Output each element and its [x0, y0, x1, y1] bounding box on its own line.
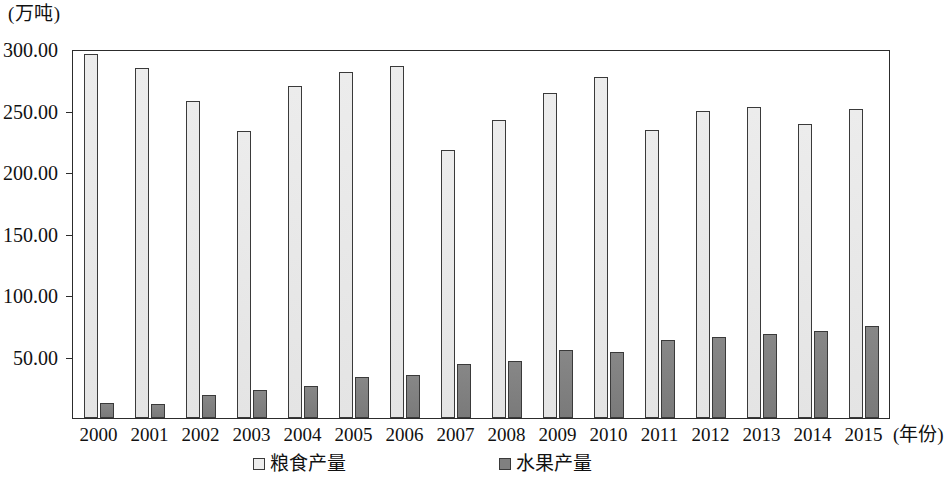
bar-group — [736, 51, 787, 418]
x-axis-tick-label: 2004 — [284, 422, 322, 448]
chart-root: (万吨) 50.00100.00150.00200.00250.00300.00… — [0, 0, 951, 479]
bar-group — [583, 51, 634, 418]
bar-group — [175, 51, 226, 418]
bar-grain — [84, 54, 98, 418]
bar-grain — [390, 66, 404, 418]
x-axis-tick-label: 2014 — [794, 422, 832, 448]
x-axis-tick-label: 2008 — [488, 422, 526, 448]
bar-grain — [543, 93, 557, 418]
x-axis-tick-label: 2000 — [80, 422, 118, 448]
bar-grain — [747, 107, 761, 418]
y-axis-tick-label: 50.00 — [13, 348, 58, 368]
bar-fruit — [457, 364, 471, 418]
bar-fruit — [100, 403, 114, 418]
bar-fruit — [304, 386, 318, 418]
y-axis-unit-caption: (万吨) — [8, 2, 61, 26]
y-axis-tick-mark — [66, 358, 73, 359]
bar-grain — [492, 120, 506, 418]
y-axis-tick-mark — [66, 296, 73, 297]
bar-fruit — [661, 340, 675, 418]
bar-fruit — [253, 390, 267, 418]
x-axis-tick-label: 2001 — [131, 422, 169, 448]
bar-grain — [135, 68, 149, 418]
y-axis-tick-label: 150.00 — [3, 225, 58, 245]
x-axis-tick-label: 2002 — [182, 422, 220, 448]
bar-grain — [594, 77, 608, 418]
bar-grain — [798, 124, 812, 418]
x-axis-tick-label: 2005 — [335, 422, 373, 448]
y-axis-tick-label: 300.00 — [3, 40, 58, 60]
bar-group — [430, 51, 481, 418]
bar-group — [379, 51, 430, 418]
bar-group — [73, 51, 124, 418]
bar-fruit — [406, 375, 420, 418]
legend-swatch-fruit-icon — [499, 458, 511, 470]
bar-fruit — [763, 334, 777, 418]
bar-fruit — [508, 361, 522, 418]
bar-group — [787, 51, 838, 418]
bar-grain — [645, 130, 659, 418]
legend-swatch-grain-icon — [253, 458, 265, 470]
bar-grain — [186, 101, 200, 418]
bar-group — [124, 51, 175, 418]
x-axis-tick-label: 2009 — [539, 422, 577, 448]
bar-grain — [339, 72, 353, 418]
bar-fruit — [814, 331, 828, 418]
bar-fruit — [559, 350, 573, 419]
legend-item-grain: 粮食产量 — [253, 452, 346, 476]
bar-grain — [849, 109, 863, 418]
x-axis-tick-label: 2010 — [590, 422, 628, 448]
bar-grain — [696, 111, 710, 418]
y-axis: 50.00100.00150.00200.00250.00300.00 — [0, 50, 66, 419]
bar-fruit — [865, 326, 879, 418]
x-axis-title: (年份) — [893, 422, 944, 448]
y-axis-tick-mark — [66, 173, 73, 174]
x-axis-tick-label: 2003 — [233, 422, 271, 448]
bar-group — [277, 51, 328, 418]
x-axis-tick-label: 2012 — [692, 422, 730, 448]
chart-legend: 粮食产量 水果产量 — [0, 452, 951, 479]
bar-grain — [288, 86, 302, 418]
legend-label-fruit: 水果产量 — [516, 452, 592, 476]
bar-grain — [441, 150, 455, 418]
legend-item-fruit: 水果产量 — [499, 452, 592, 476]
y-axis-tick-label: 100.00 — [3, 286, 58, 306]
bar-fruit — [355, 377, 369, 418]
x-axis-tick-label: 2013 — [743, 422, 781, 448]
bar-fruit — [610, 352, 624, 418]
bar-fruit — [712, 337, 726, 418]
y-axis-tick-mark — [66, 235, 73, 236]
x-axis: 2000200120022003200420052006200720082009… — [73, 422, 889, 450]
bar-fruit — [202, 395, 216, 418]
bars-layer — [73, 51, 889, 418]
x-axis-tick-label: 2006 — [386, 422, 424, 448]
x-axis-tick-label: 2015 — [845, 422, 883, 448]
y-axis-tick-label: 250.00 — [3, 102, 58, 122]
legend-label-grain: 粮食产量 — [270, 452, 346, 476]
bar-group — [226, 51, 277, 418]
y-axis-tick-label: 200.00 — [3, 163, 58, 183]
y-axis-tick-mark — [66, 112, 73, 113]
bar-group — [634, 51, 685, 418]
bar-group — [685, 51, 736, 418]
bar-grain — [237, 131, 251, 418]
bar-group — [838, 51, 889, 418]
bar-group — [481, 51, 532, 418]
x-axis-tick-label: 2011 — [641, 422, 678, 448]
bar-group — [532, 51, 583, 418]
bar-group — [328, 51, 379, 418]
x-axis-tick-label: 2007 — [437, 422, 475, 448]
bar-fruit — [151, 404, 165, 418]
